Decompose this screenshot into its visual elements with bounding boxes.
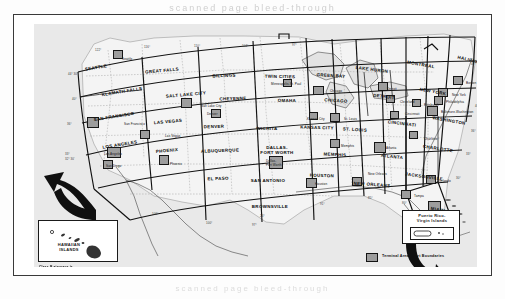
legend-tac-label: Terminal Area Chart Boundaries	[382, 254, 444, 258]
map-canvas: SEATTLEGREAT FALLSBILLINGSTWIN CITIESGRE…	[34, 24, 477, 267]
page-bleed-bottom: scanned page bleed-through	[0, 279, 505, 299]
chart-frame: SEATTLEGREAT FALLSBILLINGSTWIN CITIESGRE…	[13, 14, 492, 276]
legend-tac-swatch	[366, 253, 378, 262]
puerto-rico-arrow	[34, 24, 477, 267]
sectional-chart-index-page: scanned page bleed-through	[0, 0, 505, 299]
